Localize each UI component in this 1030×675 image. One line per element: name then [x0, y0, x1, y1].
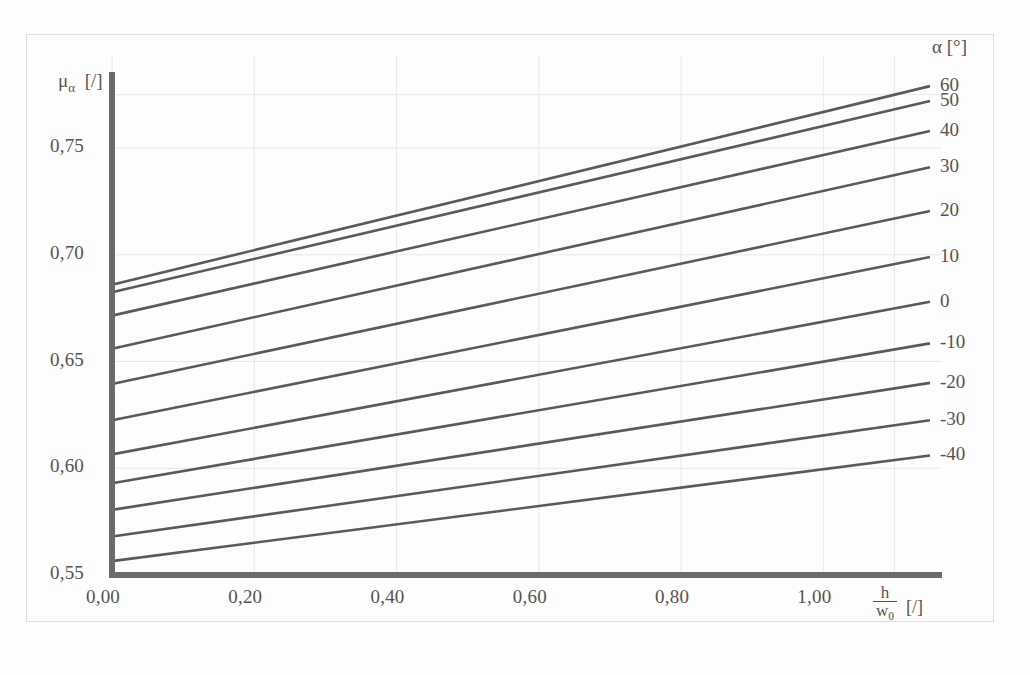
y-axis-title-subscript: α [68, 80, 75, 95]
x-axis-title-fraction: h w0 [873, 584, 897, 624]
y-tick-label: 0,70 [50, 242, 84, 264]
plot-area [0, 0, 1030, 675]
legend-entry-10: 10 [940, 245, 959, 267]
legend-title: α [°] [932, 36, 967, 58]
series-line-minus40 [112, 455, 930, 561]
legend-entry-minus10: -10 [940, 331, 965, 353]
chart-figure: μα [/] h w0 [/] α [°] 0,000,200,400,600,… [0, 0, 1030, 675]
y-tick-label: 0,65 [50, 349, 84, 371]
legend-entry-minus30: -30 [940, 408, 965, 430]
x-tick-label: 0,20 [228, 586, 262, 608]
series-line-30 [112, 167, 930, 348]
legend-entry-50: 50 [940, 89, 959, 111]
series-line-10 [112, 257, 930, 420]
series-line-0 [112, 302, 930, 455]
legend-entry-0: 0 [940, 290, 950, 312]
x-axis-title-numerator: h [873, 584, 897, 601]
legend-entry-minus40: -40 [940, 443, 965, 465]
x-tick-label: 1,00 [797, 586, 831, 608]
legend-entry-minus20: -20 [940, 371, 965, 393]
x-axis-title-denominator-subscript: 0 [888, 611, 894, 624]
legend-entry-40: 40 [940, 119, 959, 141]
legend-entry-20: 20 [940, 199, 959, 221]
y-axis-title: μα [/] [58, 70, 103, 96]
x-tick-label: 0,80 [655, 586, 689, 608]
series-line-minus10 [112, 343, 930, 483]
chart-svg [0, 0, 1030, 675]
series-line-40 [112, 131, 930, 316]
y-tick-label: 0,75 [50, 135, 84, 157]
x-tick-label: 0,40 [371, 586, 405, 608]
legend-entry-30: 30 [940, 155, 959, 177]
series-line-20 [112, 211, 930, 384]
y-tick-label: 0,55 [50, 562, 84, 584]
series-line-50 [112, 101, 930, 292]
x-axis-title-unit: [/] [906, 597, 923, 618]
x-axis-title-denominator: w0 [873, 601, 897, 623]
x-tick-label: 0,60 [513, 586, 547, 608]
series-line-minus20 [112, 383, 930, 510]
series-line-minus30 [112, 420, 930, 536]
y-tick-label: 0,60 [50, 455, 84, 477]
y-axis-title-symbol: μ [58, 70, 68, 91]
y-axis-title-unit: [/] [85, 70, 103, 91]
x-tick-label: 0,00 [86, 586, 120, 608]
